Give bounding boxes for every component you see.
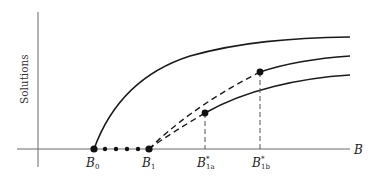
- label-b1b-sup: *: [261, 155, 265, 163]
- label-b1: B: [141, 156, 151, 170]
- label-b1b-sub: 1b: [261, 163, 270, 171]
- middle-solid-curve: [260, 56, 350, 72]
- point-b1: [145, 145, 152, 152]
- point-b0: [90, 145, 97, 152]
- label-b1a: B: [196, 156, 206, 170]
- label-b0: B: [85, 156, 95, 170]
- dotted-point: [103, 147, 107, 151]
- lower-solid-curve: [205, 75, 350, 113]
- label-b1b: B: [251, 156, 261, 170]
- dotted-point: [125, 147, 129, 151]
- bifurcation-diagram: Solutions B B 0 B 1 B * 1a B * 1b: [0, 0, 377, 178]
- y-axis-label: Solutions: [18, 54, 30, 104]
- x-axis-label: B: [353, 143, 363, 157]
- label-b1-sub: 1: [151, 163, 155, 171]
- dashed-branch-lower: [149, 113, 205, 149]
- dotted-point: [136, 147, 140, 151]
- label-b1a-sub: 1a: [206, 163, 215, 171]
- point-b1a-star: [202, 110, 209, 117]
- label-b1a-sup: *: [206, 155, 210, 163]
- point-b1b-star: [257, 69, 264, 76]
- label-b0-sub: 0: [95, 163, 99, 171]
- dotted-point: [114, 147, 118, 151]
